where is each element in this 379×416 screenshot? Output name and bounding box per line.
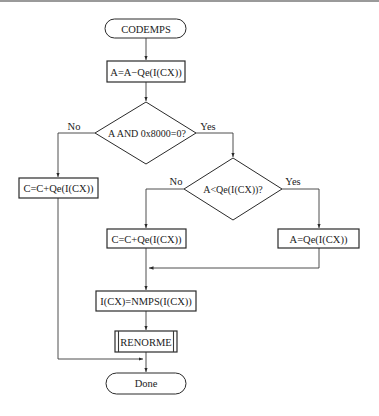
edge-seta-merge xyxy=(149,248,319,268)
decision-sign-label: A AND 0x8000=0? xyxy=(108,128,186,139)
renorme-label: RENORME xyxy=(120,337,171,348)
process-mid-add-c: C=C+Qe(I(CX)) xyxy=(107,229,186,248)
process-nmps: I(CX)=NMPS(I(CX)) xyxy=(96,291,196,311)
nmps-label: I(CX)=NMPS(I(CX)) xyxy=(100,296,192,308)
decision-compare-label: A<Qe(I(CX))? xyxy=(203,184,263,196)
flowchart-canvas: CODEMPS A=A−Qe(I(CX)) A AND 0x8000=0? No… xyxy=(0,0,379,416)
connectors xyxy=(58,38,319,372)
edge-decision2-no xyxy=(146,189,184,228)
process-subtract-qe: A=A−Qe(I(CX)) xyxy=(107,61,185,82)
decision2-yes-label: Yes xyxy=(285,176,300,187)
end-terminal: Done xyxy=(106,373,186,394)
edge-decision1-no xyxy=(58,133,95,177)
end-label: Done xyxy=(135,378,158,389)
set-a-label: A=Qe(I(CX)) xyxy=(290,234,348,246)
decision-sign-check: A AND 0x8000=0? xyxy=(95,102,196,164)
subroutine-renorme: RENORME xyxy=(115,331,177,352)
decision2-no-label: No xyxy=(170,176,183,187)
start-label: CODEMPS xyxy=(121,24,171,35)
edge-decision2-yes xyxy=(282,189,319,228)
left-add-c-label: C=C+Qe(I(CX)) xyxy=(23,183,94,195)
subtract-qe-label: A=A−Qe(I(CX)) xyxy=(110,67,182,79)
process-set-a: A=Qe(I(CX)) xyxy=(278,229,359,248)
process-left-add-c: C=C+Qe(I(CX)) xyxy=(19,178,98,198)
decision-compare: A<Qe(I(CX))? xyxy=(184,158,282,220)
start-terminal: CODEMPS xyxy=(105,19,186,38)
decision1-no-label: No xyxy=(68,121,81,132)
decision1-yes-label: Yes xyxy=(200,121,215,132)
mid-add-c-label: C=C+Qe(I(CX)) xyxy=(111,234,182,246)
edge-decision1-yes xyxy=(196,133,233,157)
